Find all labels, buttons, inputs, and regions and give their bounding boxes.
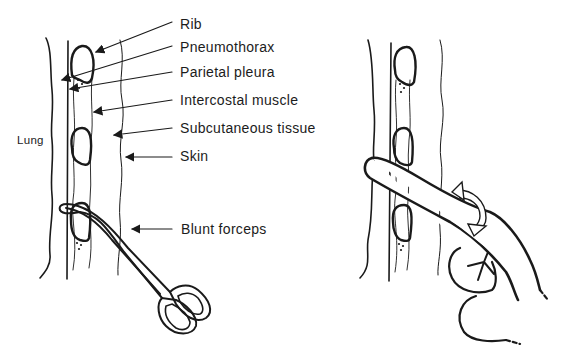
label-blunt-forceps: Blunt forceps	[181, 221, 267, 237]
rib-top	[71, 46, 93, 83]
label-pneumothorax: Pneumothorax	[180, 39, 275, 55]
arrow-rib	[96, 22, 172, 52]
rib-middle	[71, 128, 91, 165]
label-intercostal-muscle: Intercostal muscle	[180, 92, 298, 108]
label-subcutaneous-tissue: Subcutaneous tissue	[180, 120, 316, 136]
label-parietal-pleura: Parietal pleura	[180, 64, 275, 80]
diagram-canvas	[0, 0, 574, 359]
arrow-intercostal	[94, 100, 172, 112]
label-skin: Skin	[180, 148, 208, 164]
leader-arrows	[62, 22, 172, 229]
label-rib: Rib	[180, 16, 202, 32]
lung-surface-line	[40, 38, 53, 278]
label-lung: Lung	[17, 132, 44, 148]
parietal-pleura-line	[67, 41, 68, 279]
arrow-subcutaneous	[114, 128, 172, 135]
right-panel	[360, 40, 548, 344]
